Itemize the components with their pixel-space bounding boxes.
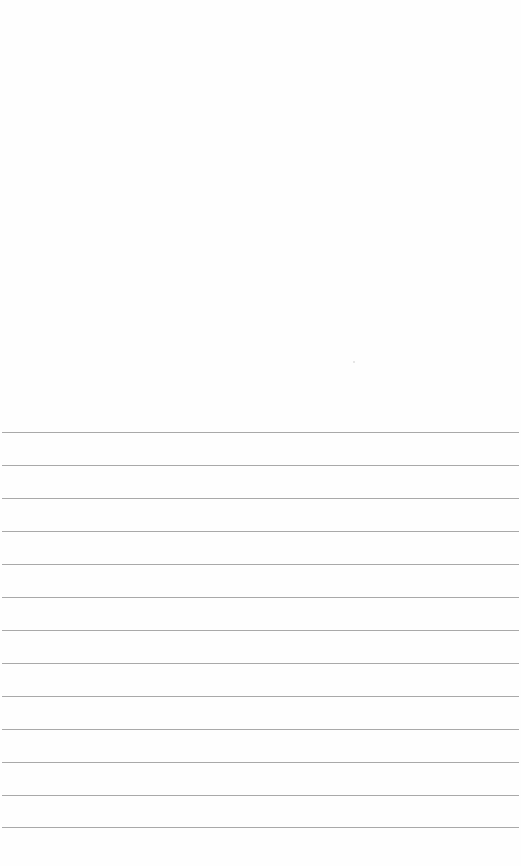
ruled-line — [2, 597, 519, 598]
ruled-line — [2, 795, 519, 796]
ruled-line — [2, 729, 519, 730]
ruled-line — [2, 762, 519, 763]
ruled-line — [2, 465, 519, 466]
ruled-line — [2, 564, 519, 565]
ruled-line — [2, 696, 519, 697]
ruled-line — [2, 498, 519, 499]
ruled-line — [2, 827, 519, 828]
ruled-line — [2, 432, 519, 433]
lined-page — [0, 0, 521, 866]
ruled-lines — [0, 0, 521, 866]
ruled-line — [2, 663, 519, 664]
ruled-line — [2, 630, 519, 631]
ruled-line — [2, 531, 519, 532]
